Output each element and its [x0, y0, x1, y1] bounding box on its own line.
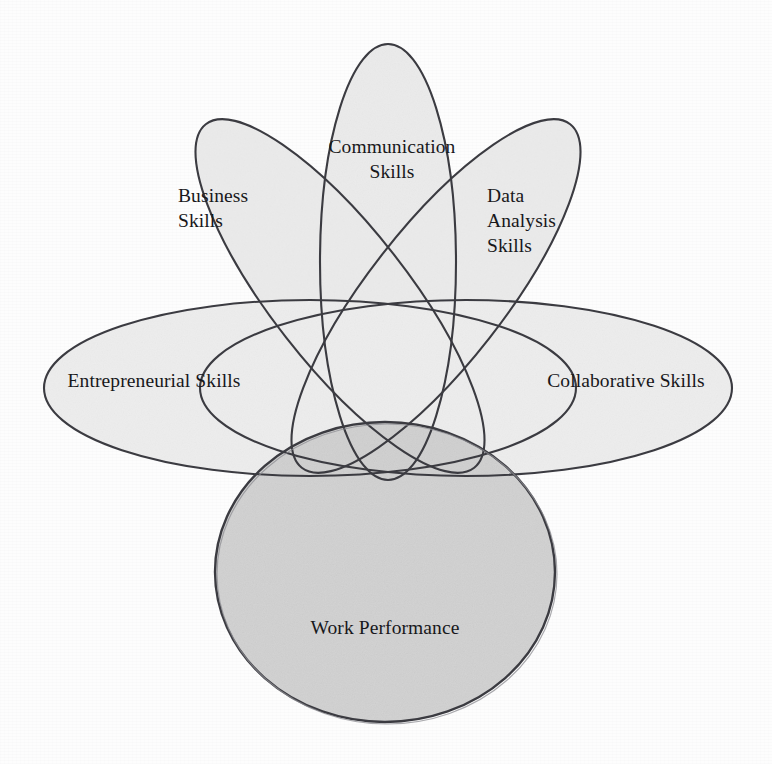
set-label-collaborative: Collaborative Skills [526, 368, 726, 393]
set-label-entrepreneurial: Entrepreneurial Skills [54, 368, 254, 393]
set-shape-work-performance-fill [215, 422, 555, 722]
set-label-data-analysis: Data Analysis Skills [487, 183, 607, 258]
set-label-work-performance: Work Performance [285, 615, 485, 640]
set-label-business: Business Skills [178, 183, 298, 233]
set-label-communication: Communication Skills [318, 134, 466, 184]
venn-diagram: Communication Skills Business Skills Dat… [0, 0, 772, 764]
